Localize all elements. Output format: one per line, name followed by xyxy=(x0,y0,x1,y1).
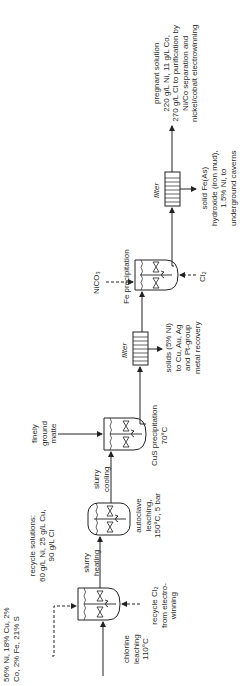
filter-1-label: filter xyxy=(120,343,130,358)
stream-label-line: 1.5% Ni, to xyxy=(219,150,229,226)
unit-label-line: 70°C xyxy=(160,405,170,466)
recycle-cl2-label: recycle Cl₂ from electro- winning xyxy=(150,583,179,628)
cus-precipitation-label: CuS precipitation 70°C xyxy=(150,405,169,466)
pregnant-solution-label: pregnant solution 220 g/L Ni, 11 g/L Co,… xyxy=(152,25,200,122)
stream-label-line: solid Fe(As) xyxy=(200,150,210,226)
stream-label-line: metal recovery xyxy=(193,322,203,374)
chlorine-leaching-label: chlorine leaching 110°C xyxy=(122,634,151,664)
recycle-solutions-line-1: recycle solutions: xyxy=(28,509,38,582)
unit-label-line: Fe precipitation xyxy=(122,249,132,304)
unit-label-line: 150°C, 5 bar xyxy=(153,493,163,538)
recycle-solutions-line-2: 60 g/L Ni, 25 g/L Cu, xyxy=(38,509,48,582)
stream-label-line: cooling xyxy=(102,467,112,492)
stream-label-line: hydroxide (iron mud), xyxy=(210,150,220,226)
filter-2-label: filter xyxy=(152,183,162,198)
slurry-cooling-label: slurry cooling xyxy=(92,467,111,492)
recycle-cl2-line-2: from electro- xyxy=(160,583,170,628)
unit-label-line: CuS precipitation xyxy=(150,405,160,466)
feed-line-1: 56% Ni, 18% Cu, 2% xyxy=(2,607,12,682)
solid-fe-hydroxide-label: solid Fe(As) hydroxide (iron mud), 1.5% … xyxy=(200,150,238,226)
stream-label-line: underground caverns xyxy=(229,150,239,226)
stream-label-line: Ni/Co separation and xyxy=(181,25,191,122)
stream-label-line: matte xyxy=(49,421,59,446)
filter-1 xyxy=(133,332,148,365)
stream-label-line: pregnant solution xyxy=(152,25,162,122)
unit-label-line: filter xyxy=(120,343,130,358)
nico3-label: NiCO₃ xyxy=(92,271,102,294)
feed-line-2: Co, 2% Fe, 21% S xyxy=(12,607,22,682)
unit-label-line: autoclave xyxy=(134,493,144,538)
unit-label-line: 110°C xyxy=(141,634,151,664)
stream-label-line: to Cu, Au, Ag xyxy=(174,322,184,374)
ground-matte-label: finely ground matte xyxy=(30,421,59,446)
nico3-text: NiCO₃ xyxy=(92,271,102,294)
recycle-solutions-line-3: 90 g/L Cl xyxy=(47,509,57,582)
cl2-text: Cl₂ xyxy=(198,271,208,282)
unit-label-line: leaching, xyxy=(144,493,154,538)
filter-2 xyxy=(165,172,180,206)
recycle-cl2-line-3: winning xyxy=(169,583,179,628)
stream-label-line: finely xyxy=(30,421,40,446)
fe-precipitation-label: Fe precipitation xyxy=(122,249,132,304)
stream-label-line: slurry xyxy=(92,467,102,492)
feed-composition-label: 56% Ni, 18% Cu, 2% Co, 2% Fe, 21% S xyxy=(2,607,21,682)
unit-label-line: filter xyxy=(152,183,162,198)
autoclave-leaching-label: autoclave leaching, 150°C, 5 bar xyxy=(134,493,163,538)
stream-label-line: ground xyxy=(40,421,50,446)
recycle-cl2-line-1: recycle Cl₂ xyxy=(150,583,160,628)
process-flow-diagram: 56% Ni, 18% Cu, 2% Co, 2% Fe, 21% S recy… xyxy=(0,0,246,686)
stream-label-line: slurry xyxy=(82,550,92,576)
stream-label-line: nickel/cobalt electrowinning xyxy=(190,25,200,122)
unit-label-line: leaching xyxy=(132,634,142,664)
autoclave-reactor xyxy=(88,503,130,535)
cl2-label: Cl₂ xyxy=(198,271,208,282)
chlorine-leaching-reactor xyxy=(78,588,120,620)
stream-label-line: heating xyxy=(92,550,102,576)
stream-label-line: 270 g/L Cl to purification by xyxy=(171,25,181,122)
slurry-heating-label: slurry heating xyxy=(82,550,101,576)
stream-label-line: solids (5% Ni) xyxy=(164,322,174,374)
stream-label-line: 220 g/L Ni, 11 g/L Co, xyxy=(162,25,172,122)
stream-label-line: and Pt-group xyxy=(183,322,193,374)
recycle-solutions-label: recycle solutions: 60 g/L Ni, 25 g/L Cu,… xyxy=(28,509,57,582)
solids-cus-label: solids (5% Ni) to Cu, Au, Ag and Pt-grou… xyxy=(164,322,202,374)
unit-label-line: chlorine xyxy=(122,634,132,664)
